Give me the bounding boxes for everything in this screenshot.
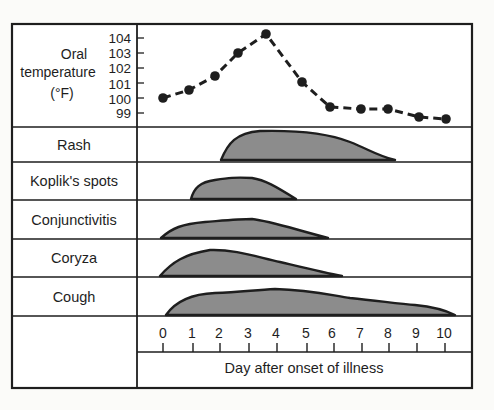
y-tick-101: 101 <box>108 77 131 92</box>
temp-label-line3: (°F) <box>50 85 73 101</box>
x-tick-5: 5 <box>302 325 310 341</box>
row-label-rash: Rash <box>57 137 91 153</box>
temp-label-line2: temperature <box>20 64 96 80</box>
temp-label-line1: Oral <box>61 46 87 62</box>
x-tick-2: 2 <box>215 325 223 341</box>
y-tick-104: 104 <box>108 31 131 46</box>
row-label-cough: Cough <box>53 289 96 305</box>
y-tick-99: 99 <box>116 106 131 121</box>
x-tick-6: 6 <box>328 325 336 341</box>
x-tick-0: 0 <box>159 325 167 341</box>
x-tick-1: 1 <box>188 325 196 341</box>
x-tick-8: 8 <box>384 325 392 341</box>
x-axis-label: Day after onset of illness <box>225 360 384 376</box>
x-tick-7: 7 <box>356 325 364 341</box>
x-tick-4: 4 <box>272 325 280 341</box>
row-label-conjunctivitis: Conjunctivitis <box>31 212 116 228</box>
y-tick-103: 103 <box>108 46 131 61</box>
x-tick-9: 9 <box>412 325 420 341</box>
y-tick-100: 100 <box>108 92 131 107</box>
row-label-coryza: Coryza <box>51 250 98 266</box>
measles-symptom-timeline-chart: Oral temperature (°F) 104 103 102 101 10… <box>0 0 494 410</box>
row-label-kopliks-spots: Koplik's spots <box>30 173 118 189</box>
x-tick-3: 3 <box>244 325 252 341</box>
y-tick-102: 102 <box>108 61 131 76</box>
x-tick-10: 10 <box>436 325 452 341</box>
